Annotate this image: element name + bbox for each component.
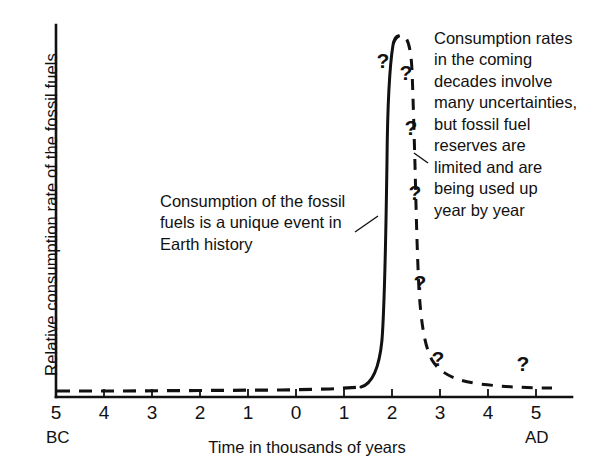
annotation-right-line-6: reserves are <box>434 135 612 156</box>
x-tick-label-4: 1 <box>233 402 263 424</box>
x-tick-label-1: 4 <box>89 402 119 424</box>
x-tick-label-7: 2 <box>377 402 407 424</box>
x-tick-label-2: 3 <box>137 402 167 424</box>
svg-text:?: ? <box>409 181 422 204</box>
annotation-right-line-3: decades involve <box>434 71 612 92</box>
svg-text:?: ? <box>400 61 413 84</box>
svg-text:?: ? <box>432 347 445 370</box>
annotation-left-line-1: Consumption of the fossil <box>160 191 375 212</box>
x-tick-label-0: 5 <box>41 402 71 424</box>
x-tick-label-9: 4 <box>473 402 503 424</box>
annotation-right-line-7: limited and are <box>434 157 612 178</box>
svg-text:?: ? <box>517 352 530 375</box>
svg-text:?: ? <box>377 49 390 72</box>
y-axis-label: Relative consumption rate of the fossil … <box>42 15 61 415</box>
x-tick-label-5: 0 <box>281 402 311 424</box>
chart-figure: ? ? ? ? ? ? ? Relative consumption rate … <box>0 0 614 470</box>
annotation-left-line-2: fuels is a unique event in <box>160 212 375 233</box>
x-tick-label-8: 3 <box>425 402 455 424</box>
x-tick-label-10: 5 <box>521 402 551 424</box>
annotation-right-line-4: many uncertainties, <box>434 92 612 113</box>
x-axis-tick-labels: 5 4 3 2 1 0 1 2 3 4 5 <box>0 402 614 426</box>
annotation-right: Consumption rates in the coming decades … <box>434 28 612 221</box>
annotation-right-line-9: year by year <box>434 200 612 221</box>
x-tick-label-3: 2 <box>185 402 215 424</box>
annotation-left: Consumption of the fossil fuels is a uni… <box>160 191 375 255</box>
annotation-right-line-1: Consumption rates <box>434 28 612 49</box>
annotation-right-line-5: but fossil fuel <box>434 114 612 135</box>
svg-text:?: ? <box>414 271 427 294</box>
svg-text:?: ? <box>405 116 418 139</box>
annotation-right-line-2: in the coming <box>434 49 612 70</box>
annotation-right-line-8: being used up <box>434 178 612 199</box>
annotation-left-line-3: Earth history <box>160 234 375 255</box>
x-axis-label: Time in thousands of years <box>0 438 614 457</box>
baseline-dashed-segment <box>57 387 361 391</box>
x-tick-label-6: 1 <box>329 402 359 424</box>
